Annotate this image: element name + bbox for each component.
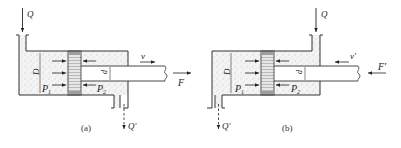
- fluid-chamber-right-a: [81, 51, 128, 108]
- force-label-b: F': [377, 61, 387, 72]
- outlet-label-a: Q': [128, 121, 137, 131]
- inlet-label-a: Q: [27, 9, 34, 19]
- outlet-label-b: Q': [222, 121, 231, 131]
- caption-a: (a): [81, 123, 91, 133]
- piston-a: [68, 51, 81, 95]
- piston-b: [261, 51, 274, 95]
- fluid-chamber-left-b: [212, 51, 261, 108]
- diameter-label-b: D: [222, 68, 232, 76]
- rod-diameter-label-a: d: [100, 69, 109, 74]
- caption-b: (b): [282, 123, 293, 133]
- rod-diameter-label-b: d: [295, 69, 304, 74]
- diagram-canvas: Q Q' D d P1 P2 v F (a): [0, 0, 401, 148]
- velocity-label-b: v': [350, 51, 357, 61]
- piston-rod-a: [81, 66, 165, 81]
- diameter-label-a: D: [31, 68, 41, 76]
- force-label-a: F: [177, 77, 185, 88]
- panel-b: Q Q' D d P1 P2 v' F' (b): [207, 8, 387, 133]
- piston-rod-b: [274, 66, 358, 81]
- panel-a: Q Q' D d P1 P2 v F (a): [16, 8, 191, 133]
- velocity-label-a: v: [141, 51, 145, 61]
- inlet-label-b: Q: [321, 9, 328, 19]
